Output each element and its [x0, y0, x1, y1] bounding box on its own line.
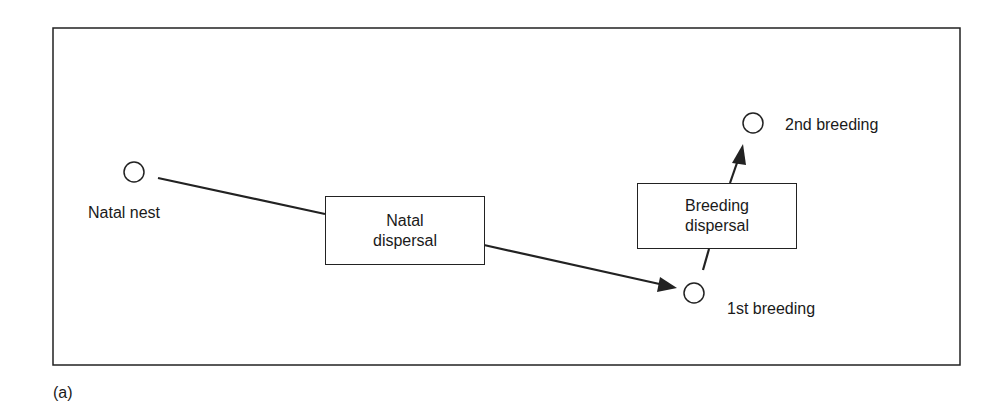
breeding-dispersal-line1: Breeding [685, 196, 749, 216]
second-breeding-node-icon [743, 113, 763, 133]
natal-dispersal-arrowhead-icon [657, 277, 677, 292]
breeding-dispersal-box: Breeding dispersal [637, 183, 797, 249]
panel-label: (a) [53, 383, 73, 402]
second-breeding-label: 2nd breeding [785, 115, 878, 134]
natal-dispersal-box: Natal dispersal [325, 196, 485, 265]
natal-dispersal-line-end [484, 245, 664, 285]
breeding-dispersal-line-start [703, 249, 709, 270]
natal-dispersal-line2: dispersal [373, 231, 437, 251]
natal-nest-node-icon [124, 162, 144, 182]
natal-dispersal-line-start [158, 178, 325, 214]
figure-frame [53, 28, 960, 365]
first-breeding-label: 1st breeding [727, 299, 815, 318]
breeding-dispersal-arrowhead-icon [732, 144, 746, 165]
first-breeding-node-icon [684, 283, 704, 303]
breeding-dispersal-line2: dispersal [685, 216, 749, 236]
natal-nest-label: Natal nest [88, 203, 160, 222]
natal-dispersal-line1: Natal [386, 211, 423, 231]
